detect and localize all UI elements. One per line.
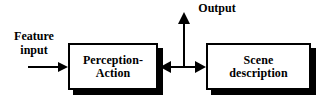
node-scene-description-label-line2: description (229, 67, 287, 80)
node-scene-description[interactable]: Scene description (206, 43, 311, 90)
feature-input-label: Feature input (6, 29, 62, 57)
block-diagram: Perception- Action Scene description Fea… (0, 0, 322, 106)
node-perception-action-label-line2: Action (96, 67, 131, 80)
node-scene-description-label-line1: Scene (244, 54, 274, 67)
node-perception-action-label-line1: Perception- (83, 54, 143, 67)
feature-input-label-line2: input (6, 43, 62, 57)
node-perception-action[interactable]: Perception- Action (68, 43, 158, 90)
feature-input-arrow (28, 62, 68, 72)
output-label: Output (192, 1, 242, 15)
feature-input-label-line1: Feature (6, 29, 62, 43)
output-arrow (178, 12, 190, 67)
